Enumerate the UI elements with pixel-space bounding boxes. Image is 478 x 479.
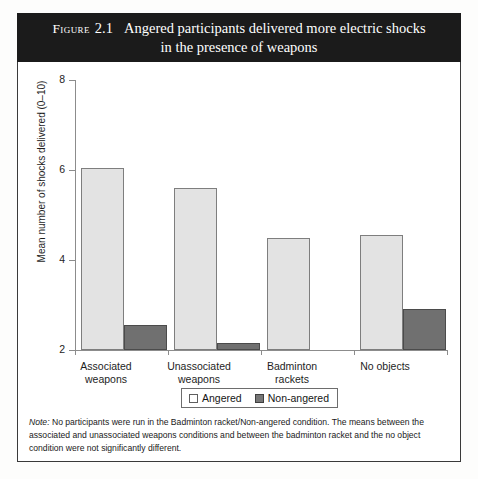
bar-angered-badminton-rackets xyxy=(267,238,310,350)
bar-group-container xyxy=(75,80,447,350)
figure-title-line-1: Angered participants delivered more elec… xyxy=(124,20,426,36)
chart-legend: Angered Non-angered xyxy=(181,388,338,408)
bar-non-angered-unassociated-weapons xyxy=(217,343,260,350)
bar-non-angered-no-objects xyxy=(403,309,446,350)
x-axis-label-line: weapons xyxy=(61,373,151,386)
bar-angered-unassociated-weapons xyxy=(174,188,217,350)
x-tick-2 xyxy=(261,350,262,355)
x-tick-4 xyxy=(447,350,448,355)
x-axis-label-line: Badminton xyxy=(247,360,337,373)
x-axis-label-line: weapons xyxy=(154,373,244,386)
legend-label-angered: Angered xyxy=(202,392,242,404)
y-tick-label-2: 2 xyxy=(35,343,65,355)
figure-note-prefix: Note: xyxy=(29,417,50,427)
legend-swatch-non-angered-icon xyxy=(255,394,264,403)
figure-title-line-2: in the presence of weapons xyxy=(160,39,317,55)
x-axis-label-no-objects: No objects xyxy=(340,360,430,373)
x-tick-3 xyxy=(354,350,355,355)
y-tick-label-8: 8 xyxy=(35,73,65,85)
figure-label: Figure xyxy=(52,21,89,36)
chart-plot-area: Mean number of shocks delivered (0–10) 8… xyxy=(17,62,461,462)
figure-note: Note: No participants were run in the Ba… xyxy=(29,416,443,455)
figure-container: Figure2.1Angered participants delivered … xyxy=(0,0,478,479)
figure-title-banner: Figure2.1Angered participants delivered … xyxy=(17,13,461,62)
x-axis-label-associated-weapons: Associated weapons xyxy=(61,360,151,386)
figure-note-text: No participants were run in the Badminto… xyxy=(29,417,424,453)
x-axis-label-line: rackets xyxy=(247,373,337,386)
x-axis-label-line: Associated xyxy=(61,360,151,373)
figure-number: 2.1 xyxy=(95,20,113,36)
figure-title-text: Figure2.1Angered participants delivered … xyxy=(26,19,451,57)
bar-angered-associated-weapons xyxy=(81,168,124,350)
x-tick-0 xyxy=(75,350,76,355)
legend-item-angered: Angered xyxy=(189,392,242,404)
y-tick-label-6: 6 xyxy=(35,163,65,175)
x-axis-label-line: No objects xyxy=(340,360,430,373)
x-axis-label-unassociated-weapons: Unassociated weapons xyxy=(154,360,244,386)
legend-label-non-angered: Non-angered xyxy=(268,392,329,404)
y-tick-label-4: 4 xyxy=(35,253,65,265)
x-axis-label-badminton-rackets: Badminton rackets xyxy=(247,360,337,386)
x-tick-1 xyxy=(168,350,169,355)
bar-non-angered-associated-weapons xyxy=(124,325,167,350)
legend-swatch-angered-icon xyxy=(189,394,198,403)
legend-item-non-angered: Non-angered xyxy=(255,392,329,404)
x-axis-label-line: Unassociated xyxy=(154,360,244,373)
bar-angered-no-objects xyxy=(360,235,403,350)
